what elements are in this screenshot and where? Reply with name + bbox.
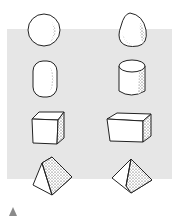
triangle-marker-icon: [9, 207, 17, 216]
rounded-cylinder-shape: [33, 61, 57, 97]
egg-cone-shape: [119, 13, 146, 47]
sphere-shape: [28, 14, 60, 46]
box-shape: [107, 113, 151, 142]
pyramid-shape: [33, 157, 72, 195]
shapes-illustration: [0, 0, 172, 224]
cylinder-shape: [119, 60, 145, 95]
tilted-pyramid-shape: [112, 159, 152, 193]
cube-shape: [32, 112, 64, 144]
